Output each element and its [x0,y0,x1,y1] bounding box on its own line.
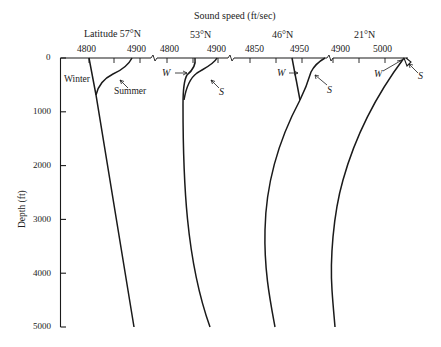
y-axis-title: Depth (ft) [17,190,27,228]
label-53n-summer: S [219,86,224,97]
label-46n-winter: W [277,67,285,78]
label-46n-summer: S [327,84,332,95]
curve-46n-winter [292,58,300,100]
panel-57n-curves [89,58,134,327]
y-tick-2000: 2000 [33,160,51,170]
curve-53n-summer [184,58,217,100]
curve-46n-deep [265,100,300,327]
panel-46n-curves [265,58,325,327]
label-57n-summer: Summer [114,86,146,96]
x-tick-53n-4800: 4800 [160,44,179,54]
y-tick-0: 0 [46,52,51,62]
x-tick-21n-4900: 4900 [331,44,350,54]
x-axis-top [61,55,409,61]
panel-label-53n: 53°N [190,29,211,40]
y-tick-1000: 1000 [33,106,51,116]
label-21n-summer: S [418,70,423,81]
x-tick-46n-4950: 4950 [290,44,309,54]
y-tick-5000: 5000 [33,321,51,331]
label-57n-winter: Winter [64,74,90,84]
y-axis-ticks [61,58,67,327]
y-tick-4000: 4000 [33,268,51,278]
curve-21n-winter [331,58,404,327]
panel-53n-curves [183,58,217,327]
y-tick-3000: 3000 [33,214,51,224]
chart-title: Sound speed (ft/sec) [194,10,276,21]
x-tick-21n-5000: 5000 [373,44,392,54]
x-tick-53n-4900: 4900 [207,44,226,54]
x-tick-57n-4800: 4800 [77,44,96,54]
label-53n-winter: W [162,67,170,78]
curve-57n-winter [89,58,134,327]
x-tick-46n-4850: 4850 [245,44,264,54]
panel-21n-curves [331,58,411,327]
panel-label-57n: Latitude 57°N [84,28,141,39]
curve-46n-summer [300,58,325,100]
panel-label-46n: 46°N [272,29,293,40]
x-tick-57n-4900: 4900 [127,44,146,54]
panel-label-21n: 21°N [354,29,375,40]
x-axis-ticks [89,58,385,63]
curve-53n-winter [183,58,210,327]
label-21n-winter: W [374,68,382,79]
